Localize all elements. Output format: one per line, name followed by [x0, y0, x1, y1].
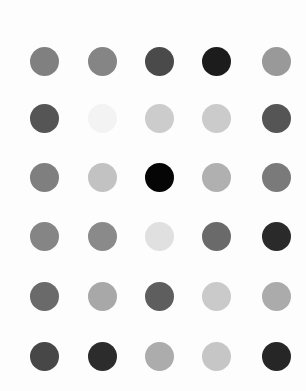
dot-r1-c1	[30, 47, 59, 76]
dot-r2-c3	[145, 104, 174, 133]
dot-r3-c4	[202, 163, 231, 192]
dot-r6-c4	[202, 342, 231, 371]
dot-r4-c4	[202, 222, 231, 251]
dot-r1-c5	[262, 47, 291, 76]
dot-r5-c2	[88, 282, 117, 311]
dot-r1-c2	[88, 47, 117, 76]
dot-r1-c3	[145, 47, 174, 76]
dot-r4-c1	[30, 222, 59, 251]
dot-r4-c2	[88, 222, 117, 251]
dot-r2-c1	[30, 104, 59, 133]
dot-r4-c3	[145, 222, 174, 251]
dot-r3-c3	[145, 163, 174, 192]
dot-r3-c5	[262, 163, 291, 192]
dot-r5-c4	[202, 282, 231, 311]
dot-r4-c5	[262, 222, 291, 251]
dot-r2-c5	[262, 104, 291, 133]
dot-r6-c5	[262, 342, 291, 371]
dot-r3-c2	[88, 163, 117, 192]
dot-r5-c5	[262, 282, 291, 311]
dot-r5-c3	[145, 282, 174, 311]
dot-r6-c2	[88, 342, 117, 371]
dot-r2-c4	[202, 104, 231, 133]
dot-r6-c3	[145, 342, 174, 371]
dot-grid	[0, 0, 306, 391]
dot-r5-c1	[30, 282, 59, 311]
dot-r6-c1	[30, 342, 59, 371]
dot-r2-c2	[88, 104, 117, 133]
dot-r1-c4	[202, 47, 231, 76]
dot-r3-c1	[30, 163, 59, 192]
